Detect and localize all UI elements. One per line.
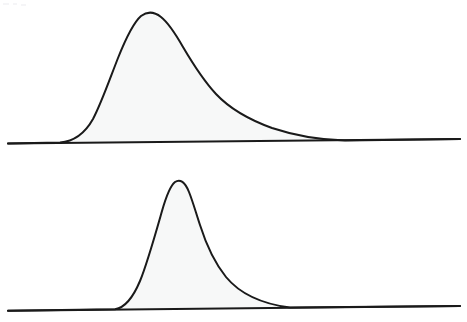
scan-speck xyxy=(3,3,9,5)
scan-speck xyxy=(21,4,26,6)
upper-distribution-fill xyxy=(8,13,460,144)
lower-distribution-group xyxy=(8,181,460,311)
upper-distribution-group xyxy=(8,13,460,144)
lower-distribution-fill xyxy=(8,181,460,311)
figure-root xyxy=(0,0,467,322)
scan-speck xyxy=(13,3,17,5)
distribution-curves-figure xyxy=(0,0,467,322)
